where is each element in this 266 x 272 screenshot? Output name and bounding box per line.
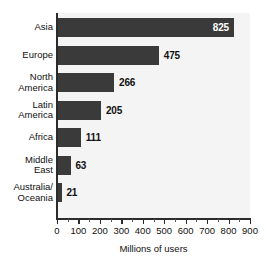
- category-label: LatinAmerica: [1, 100, 53, 121]
- category-label: Australia/Oceania: [1, 182, 53, 203]
- x-tick-major: [250, 219, 251, 224]
- bar-row: 63: [57, 156, 250, 175]
- category-label-line: East: [1, 165, 53, 176]
- bar: [57, 101, 101, 120]
- bar-value-label: 111: [86, 128, 101, 147]
- bar: [57, 156, 71, 175]
- bar-value-label: 63: [76, 156, 87, 175]
- category-label: Europe: [1, 50, 53, 61]
- category-label-line: Australia/: [1, 182, 53, 193]
- x-axis-title: Millions of users: [57, 243, 250, 254]
- bar-value-label: 825: [213, 18, 229, 37]
- bar-value-label: 475: [164, 46, 180, 65]
- category-label-line: America: [1, 110, 53, 121]
- category-label-line: North: [1, 72, 53, 83]
- x-tick-minor: [196, 219, 197, 222]
- x-tick-minor: [89, 219, 90, 222]
- x-tick-minor: [239, 219, 240, 222]
- category-label-line: Oceania: [1, 193, 53, 204]
- bar-chart-figure: 8254752662051116321 AsiaEuropeNorthAmeri…: [0, 0, 266, 272]
- x-tick-minor: [218, 219, 219, 222]
- plot-area: 8254752662051116321: [57, 13, 250, 218]
- bar: [57, 128, 81, 147]
- x-tick-minor: [154, 219, 155, 222]
- bar-row: 475: [57, 46, 250, 65]
- category-label: NorthAmerica: [1, 72, 53, 93]
- x-tick-major: [100, 219, 101, 224]
- y-axis-line: [56, 13, 58, 219]
- x-tick-major: [143, 219, 144, 224]
- x-tick-minor: [132, 219, 133, 222]
- x-tick-minor: [68, 219, 69, 222]
- x-tick-major: [207, 219, 208, 224]
- x-tick-label: 900: [236, 225, 264, 236]
- bar: [57, 183, 62, 202]
- category-label-line: Europe: [1, 50, 53, 61]
- x-tick-major: [164, 219, 165, 224]
- x-tick-major: [229, 219, 230, 224]
- bar: [57, 73, 114, 92]
- x-tick-major: [121, 219, 122, 224]
- bar-row: 111: [57, 128, 250, 147]
- x-tick-major: [78, 219, 79, 224]
- x-tick-minor: [175, 219, 176, 222]
- bar-row: 21: [57, 183, 250, 202]
- category-label: Africa: [1, 132, 53, 143]
- category-axis-labels: AsiaEuropeNorthAmericaLatinAmericaAfrica…: [0, 13, 53, 218]
- x-tick-minor: [111, 219, 112, 222]
- x-tick-major: [57, 219, 58, 224]
- bar-value-label: 205: [106, 101, 122, 120]
- bar-row: 205: [57, 101, 250, 120]
- category-label: MiddleEast: [1, 155, 53, 176]
- category-label-line: Asia: [1, 22, 53, 33]
- category-label-line: America: [1, 83, 53, 94]
- category-label-line: Africa: [1, 132, 53, 143]
- bar-row: 266: [57, 73, 250, 92]
- x-tick-major: [186, 219, 187, 224]
- bar: [57, 46, 159, 65]
- bar-value-label: 21: [67, 183, 78, 202]
- bar-row: 825: [57, 18, 250, 37]
- bar-value-label: 266: [119, 73, 135, 92]
- category-label: Asia: [1, 22, 53, 33]
- bar: [57, 18, 234, 37]
